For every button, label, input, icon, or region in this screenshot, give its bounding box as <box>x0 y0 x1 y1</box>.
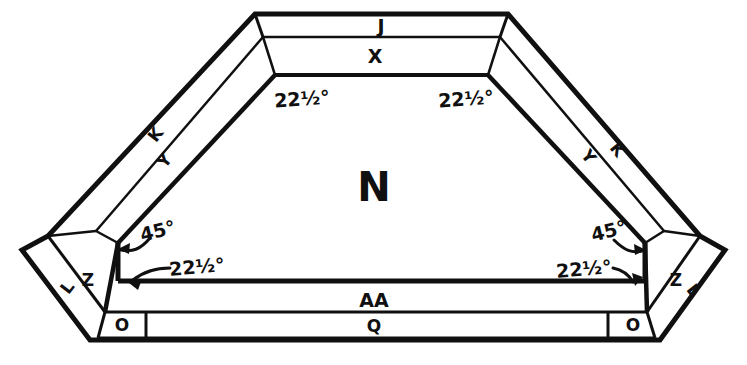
label-part-o-left: O <box>115 315 129 335</box>
label-part-j: J <box>375 15 384 37</box>
frame-assembly-drawing: N J X K Y Y K Z L Z L AA Q O O 22½° 22½°… <box>0 0 747 365</box>
label-part-aa: AA <box>359 289 389 311</box>
label-part-o-right: O <box>626 315 640 335</box>
label-part-x: X <box>368 45 383 67</box>
label-angle-top-left: 22½° <box>273 86 330 112</box>
diagram-canvas: N J X K Y Y K Z L Z L AA Q O O 22½° 22½°… <box>0 0 747 365</box>
label-part-z-right: Z <box>670 270 682 290</box>
label-part-n: N <box>357 164 390 210</box>
label-part-q: Q <box>367 316 381 336</box>
label-angle-top-right: 22½° <box>437 86 494 112</box>
label-part-z-left: Z <box>82 270 94 290</box>
